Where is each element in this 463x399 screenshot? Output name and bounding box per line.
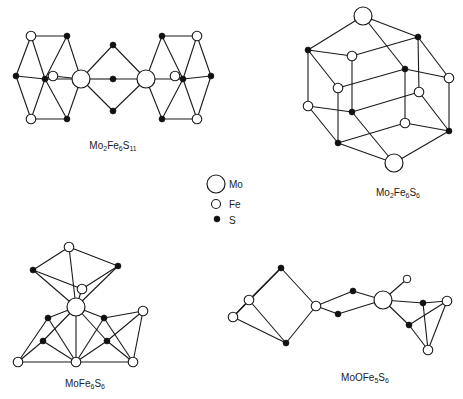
structure-mo2fe6s6 — [303, 7, 454, 172]
atom-s-icon — [13, 73, 19, 79]
atom-s-icon — [278, 265, 284, 271]
bond-line — [308, 106, 352, 112]
bond-line — [352, 37, 418, 56]
atom-fe-icon — [442, 296, 452, 306]
bond-line — [16, 76, 45, 79]
atom-fe-icon — [444, 73, 454, 83]
bond-line — [249, 300, 286, 343]
formula-symbol: Mo — [376, 187, 390, 198]
bond-line — [286, 306, 316, 343]
bond-line — [197, 36, 211, 76]
legend — [207, 175, 225, 222]
atom-s-icon — [446, 128, 452, 134]
bond-line — [419, 92, 449, 131]
legend-label-fe: Fe — [229, 199, 241, 210]
atom-s-icon — [208, 73, 214, 79]
atom-fe-icon — [77, 284, 87, 294]
structure-mo2fe6s11 — [13, 31, 214, 124]
atom-fe-icon — [26, 114, 36, 124]
bond-line — [428, 301, 447, 350]
atom-s-icon — [42, 76, 48, 82]
atom-fe-icon — [170, 71, 180, 81]
structure-label-mofe6s6: MoFe6S6 — [65, 378, 105, 390]
bond-line — [45, 79, 67, 119]
structure-label-moofe5s6: MoOFe5S6 — [341, 372, 389, 384]
atom-s-icon — [305, 47, 311, 53]
atom-s-icon — [104, 338, 110, 344]
atom-s-icon — [40, 338, 46, 344]
atom-s-icon — [283, 340, 289, 346]
bond-line — [33, 247, 69, 270]
atom-s-icon — [350, 288, 356, 294]
bond-line — [409, 301, 447, 325]
atom-mo-icon — [374, 291, 392, 309]
bond-line — [197, 76, 211, 119]
bond-line — [405, 69, 449, 78]
bond-line — [308, 106, 338, 143]
atom-fe-icon — [347, 51, 357, 61]
legend-label-s: S — [229, 215, 236, 226]
atom-fe-icon — [400, 118, 410, 128]
bond-line — [281, 268, 316, 306]
atom-s-icon — [101, 315, 107, 321]
atom-fe-icon — [244, 295, 254, 305]
bond-line — [76, 341, 107, 362]
atom-s-icon — [110, 108, 116, 114]
bond-line — [183, 36, 197, 79]
atom-o-icon — [403, 275, 411, 283]
formula-symbol: Fe — [394, 187, 406, 198]
atom-fe-icon — [192, 114, 202, 124]
formula-symbol: MoOFe — [341, 372, 374, 383]
bond-line — [233, 317, 286, 343]
atom-s-icon — [180, 76, 186, 82]
bond-line — [43, 341, 76, 362]
atom-mo-icon — [207, 175, 225, 193]
atom-s-icon — [415, 34, 421, 40]
atom-s-icon — [335, 311, 341, 317]
atom-mo-icon — [67, 298, 85, 316]
atom-fe-icon — [303, 101, 313, 111]
atom-fe-icon — [64, 242, 74, 252]
bond-line — [16, 76, 31, 119]
bond-line — [16, 36, 31, 76]
formula-symbol: MoFe — [65, 378, 91, 389]
atom-fe-icon — [228, 312, 238, 322]
formula-subscript: 6 — [385, 377, 389, 384]
formula-subscript: 6 — [101, 383, 105, 390]
bond-line — [76, 318, 104, 362]
atom-s-icon — [115, 263, 121, 269]
bond-line — [338, 69, 405, 88]
bond-line — [31, 79, 45, 119]
atom-fe-icon — [26, 31, 36, 41]
atom-s-icon — [159, 116, 165, 122]
atom-fe-icon — [13, 357, 23, 367]
structure-label-mo2fe6s6: Mo2Fe6S6 — [376, 187, 420, 199]
bond-line — [31, 36, 45, 79]
atom-s-icon — [159, 33, 165, 39]
atom-fe-icon — [311, 301, 321, 311]
atom-fe-icon — [333, 83, 343, 93]
atom-fe-icon — [212, 200, 221, 209]
bond-line — [308, 50, 338, 88]
atom-s-icon — [64, 116, 70, 122]
atom-s-icon — [45, 315, 51, 321]
atom-mo-icon — [385, 154, 403, 172]
atom-fe-icon — [48, 71, 58, 81]
structure-moofe5s6 — [228, 265, 452, 355]
structure-mofe6s6 — [13, 242, 148, 367]
atom-s-icon — [335, 140, 341, 146]
formula-subscript: 11 — [129, 145, 136, 152]
bond-line — [104, 311, 143, 318]
atom-fe-icon — [71, 357, 81, 367]
bond-line — [338, 123, 405, 143]
formula-symbol: Mo — [89, 140, 103, 151]
atom-mo-icon — [354, 7, 372, 25]
bond-line — [48, 318, 76, 362]
atom-s-icon — [110, 76, 116, 82]
bond-line — [33, 270, 82, 289]
atom-s-icon — [30, 267, 36, 273]
structure-label-mo2fe6s11: Mo2Fe6S11 — [89, 140, 136, 152]
formula-symbol: Fe — [107, 140, 119, 151]
atom-s-icon — [214, 216, 220, 222]
bond-line — [418, 37, 449, 78]
